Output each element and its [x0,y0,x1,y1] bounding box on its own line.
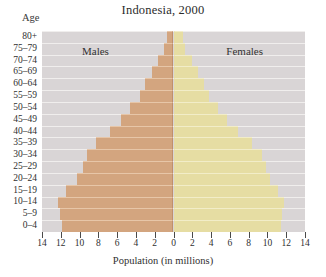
pyramid-row [42,102,305,114]
pyramid-row [42,137,305,149]
age-label-60-64: 60–64 [13,79,37,89]
bar-male-55-59 [140,90,174,102]
bar-female-75-79 [174,43,185,55]
bar-female-20-24 [174,173,271,185]
age-label-80+: 80+ [22,32,37,42]
pyramid-row [42,173,305,185]
bars-container [42,31,305,232]
x-axis-caption: Population (in millions) [0,255,326,266]
pyramid-row [42,161,305,173]
x-tick-label: 10 [71,238,89,248]
x-tick-label: 6 [108,238,126,248]
bar-male-60-64 [145,78,173,90]
x-tick-label: 8 [89,238,107,248]
age-label-65-69: 65–69 [13,67,37,77]
age-axis-caption: Age [22,12,40,23]
bar-male-65-69 [152,66,174,78]
age-label-20-24: 20–24 [13,174,37,184]
bar-female-70-74 [174,55,193,67]
chart-title: Indonesia, 2000 [0,3,326,18]
age-label-75-79: 75–79 [13,44,37,54]
bar-male-10-14 [58,197,174,209]
age-label-45-49: 45–49 [13,115,37,125]
bar-female-15-19 [174,185,278,197]
bar-male-0-4 [62,220,174,232]
age-label-70-74: 70–74 [13,56,37,66]
x-tick-label: 14 [296,238,314,248]
pyramid-row [42,78,305,90]
bar-female-0-4 [174,220,281,232]
legend-label-males: Males [82,45,109,57]
age-tick-labels: 0–45–910–1415–1920–2425–2930–3435–3940–4… [0,31,40,232]
x-tick-label: 6 [221,238,239,248]
bar-male-25-29 [83,161,173,173]
x-tick-labels: 141210864202468101214 [0,238,326,251]
age-label-40-44: 40–44 [13,127,37,137]
pyramid-row [42,220,305,232]
x-tick-label: 2 [183,238,201,248]
bar-female-35-39 [174,137,253,149]
bar-male-70-74 [158,55,174,67]
age-label-25-29: 25–29 [13,162,37,172]
bar-female-30-34 [174,149,262,161]
x-tick-label: 8 [240,238,258,248]
pyramid-row [42,31,305,43]
bar-male-45-49 [121,114,174,126]
pyramid-row [42,197,305,209]
bar-female-5-9 [174,208,283,220]
bar-male-30-34 [87,149,173,161]
age-label-15-19: 15–19 [13,186,37,196]
population-pyramid-figure: Indonesia, 2000 Age 0–45–910–1415–1920–2… [0,0,326,277]
pyramid-row [42,185,305,197]
x-tick-label: 12 [52,238,70,248]
bar-male-20-24 [77,173,174,185]
x-tick-label: 14 [33,238,51,248]
bar-female-65-69 [174,66,198,78]
bar-male-75-79 [164,43,173,55]
bar-male-5-9 [60,208,174,220]
pyramid-row [42,114,305,126]
bar-female-80+ [174,31,183,43]
age-label-55-59: 55–59 [13,91,37,101]
legend-label-females: Females [226,45,263,57]
age-label-35-39: 35–39 [13,138,37,148]
bar-female-25-29 [174,161,266,173]
x-tick-label: 2 [146,238,164,248]
pyramid-row [42,126,305,138]
age-label-10-14: 10–14 [13,197,37,207]
pyramid-row [42,90,305,102]
bar-male-50-54 [130,102,173,114]
pyramid-row [42,149,305,161]
x-tick-label: 0 [165,238,183,248]
bar-male-40-44 [110,126,174,138]
bar-male-35-39 [96,137,174,149]
age-label-0-4: 0–4 [23,221,37,231]
bar-female-60-64 [174,78,205,90]
age-label-5-9: 5–9 [23,209,37,219]
bar-female-55-59 [174,90,210,102]
pyramid-row [42,208,305,220]
bar-male-15-19 [66,185,173,197]
x-tick-label: 10 [258,238,276,248]
bar-female-50-54 [174,102,218,114]
plot-area: Males Females [42,31,305,232]
x-tick-label: 4 [127,238,145,248]
bar-female-45-49 [174,114,228,126]
x-tick-label: 4 [202,238,220,248]
age-label-30-34: 30–34 [13,150,37,160]
x-tick-label: 12 [277,238,295,248]
bar-male-80+ [167,31,174,43]
age-label-50-54: 50–54 [13,103,37,113]
pyramid-row [42,66,305,78]
bar-female-40-44 [174,126,239,138]
bar-female-10-14 [174,197,285,209]
